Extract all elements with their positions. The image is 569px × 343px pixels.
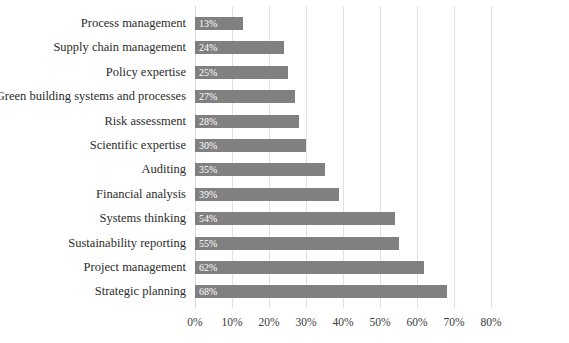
bar-value-label: 35% [199, 163, 217, 176]
bar-row: 35% [195, 163, 491, 176]
x-axis-tick-labels: 0%10%20%30%40%50%60%70%80% [195, 313, 491, 331]
x-tick-label: 0% [187, 313, 202, 331]
bar: 25% [195, 66, 288, 79]
bar: 30% [195, 139, 306, 152]
bar-row: 28% [195, 115, 491, 128]
bar-row: 68% [195, 285, 491, 298]
bar-value-label: 27% [199, 90, 217, 103]
bar-row: 54% [195, 212, 491, 225]
category-label: Financial analysis [96, 188, 186, 201]
bar-value-label: 13% [199, 17, 217, 30]
gridline-80pct [491, 6, 492, 308]
bar-value-label: 62% [199, 261, 217, 274]
bar-row: 24% [195, 41, 491, 54]
bar-value-label: 24% [199, 41, 217, 54]
bar-row: 25% [195, 66, 491, 79]
bar-value-label: 39% [199, 188, 217, 201]
category-axis-labels: Process managementSupply chain managemen… [0, 6, 190, 308]
bar: 55% [195, 237, 399, 250]
x-tick-label: 40% [332, 313, 353, 331]
x-tick-label: 60% [406, 313, 427, 331]
bar-row: 27% [195, 90, 491, 103]
x-tick-label: 70% [443, 313, 464, 331]
bar-row: 39% [195, 188, 491, 201]
bar: 62% [195, 261, 424, 274]
category-label: Strategic planning [95, 285, 186, 298]
bar: 54% [195, 212, 395, 225]
category-label: Risk assessment [104, 115, 186, 128]
x-tick-label: 80% [480, 313, 501, 331]
bar-value-label: 55% [199, 237, 217, 250]
bar-chart: Process managementSupply chain managemen… [0, 0, 569, 343]
category-label: Auditing [142, 163, 186, 176]
x-tick-label: 30% [295, 313, 316, 331]
bar: 35% [195, 163, 325, 176]
bar: 68% [195, 285, 447, 298]
bar-row: 30% [195, 139, 491, 152]
category-label: Systems thinking [100, 212, 186, 225]
bar: 24% [195, 41, 284, 54]
category-label: Project management [84, 261, 186, 274]
bar-value-label: 54% [199, 212, 217, 225]
bar: 13% [195, 17, 243, 30]
bar-row: 55% [195, 237, 491, 250]
bar: 28% [195, 115, 299, 128]
bar-row: 13% [195, 17, 491, 30]
bar: 39% [195, 188, 339, 201]
x-tick-label: 50% [369, 313, 390, 331]
bar: 27% [195, 90, 295, 103]
bar-value-label: 30% [199, 139, 217, 152]
bar-value-label: 68% [199, 285, 217, 298]
category-label: Green building systems and processes [0, 90, 186, 103]
plot-area: 13%24%25%27%28%30%35%39%54%55%62%68% [195, 6, 491, 308]
category-label: Sustainability reporting [68, 237, 186, 250]
category-label: Supply chain management [53, 41, 186, 54]
x-tick-label: 20% [258, 313, 279, 331]
category-label: Process management [81, 17, 186, 30]
bar-rows: 13%24%25%27%28%30%35%39%54%55%62%68% [195, 6, 491, 308]
bar-value-label: 25% [199, 66, 217, 79]
bar-row: 62% [195, 261, 491, 274]
category-label: Policy expertise [106, 66, 186, 79]
x-tick-label: 10% [221, 313, 242, 331]
category-label: Scientific expertise [90, 139, 186, 152]
bar-value-label: 28% [199, 115, 217, 128]
